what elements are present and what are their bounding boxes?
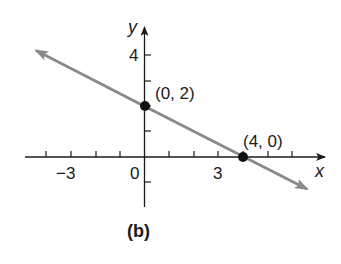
point-4-0 (238, 152, 248, 162)
y-ticks (145, 55, 152, 182)
y-axis-label: y (128, 18, 137, 36)
x-axis-label: x (315, 162, 324, 180)
x-ticks (46, 151, 292, 157)
graph-canvas (0, 0, 341, 264)
point-label-0-2: (0, 2) (155, 85, 195, 102)
x-tick-label-neg3: −3 (56, 165, 75, 182)
point-0-2 (140, 101, 150, 111)
figure-caption: (b) (127, 222, 150, 240)
graph-line (36, 51, 144, 107)
point-label-4-0: (4, 0) (243, 133, 283, 150)
graph-figure: y x 4 −3 0 3 (0, 2) (4, 0) (b) (0, 0, 341, 264)
y-tick-label-4: 4 (129, 47, 138, 64)
x-tick-label-0: 0 (130, 165, 139, 182)
x-tick-label-3: 3 (213, 165, 222, 182)
